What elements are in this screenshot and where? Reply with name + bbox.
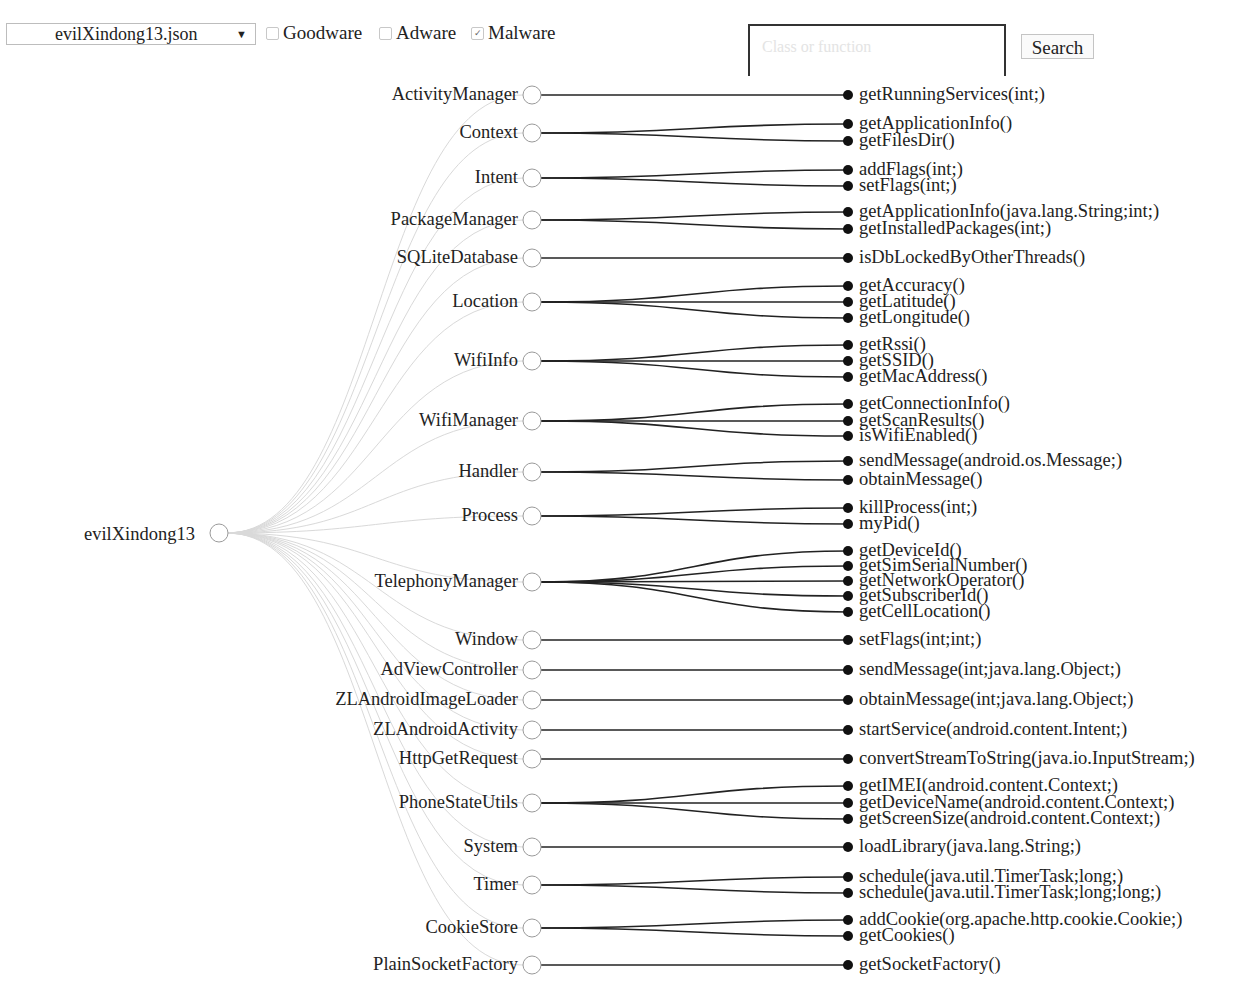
method-label[interactable]: getSocketFactory(): [859, 955, 1001, 973]
method-label[interactable]: getRunningServices(int;): [859, 85, 1045, 103]
method-node-icon[interactable]: [843, 725, 853, 735]
class-node-icon[interactable]: [523, 249, 541, 267]
method-label[interactable]: sendMessage(android.os.Message;): [859, 451, 1122, 469]
method-label[interactable]: setFlags(int;): [859, 176, 957, 194]
class-node-icon[interactable]: [523, 573, 541, 591]
method-node-icon[interactable]: [843, 281, 853, 291]
class-node-icon[interactable]: [523, 721, 541, 739]
class-label[interactable]: ActivityManager: [392, 85, 518, 103]
method-label[interactable]: getFilesDir(): [859, 131, 955, 149]
class-label[interactable]: Location: [452, 292, 518, 310]
class-label[interactable]: Process: [461, 506, 518, 524]
class-node-icon[interactable]: [523, 919, 541, 937]
method-node-icon[interactable]: [843, 399, 853, 409]
class-label[interactable]: AdViewController: [380, 660, 518, 678]
method-node-icon[interactable]: [843, 561, 853, 571]
root-node-label[interactable]: evilXindong13: [84, 524, 195, 545]
method-label[interactable]: getMacAddress(): [859, 367, 987, 385]
method-node-icon[interactable]: [843, 931, 853, 941]
method-label[interactable]: getScreenSize(android.content.Context;): [859, 809, 1160, 827]
method-node-icon[interactable]: [843, 872, 853, 882]
method-node-icon[interactable]: [843, 915, 853, 925]
class-node-icon[interactable]: [523, 463, 541, 481]
method-label[interactable]: schedule(java.util.TimerTask;long;long;): [859, 883, 1161, 901]
method-node-icon[interactable]: [843, 90, 853, 100]
method-node-icon[interactable]: [843, 798, 853, 808]
method-node-icon[interactable]: [843, 519, 853, 529]
method-node-icon[interactable]: [843, 207, 853, 217]
class-node-icon[interactable]: [523, 507, 541, 525]
class-node-icon[interactable]: [523, 691, 541, 709]
class-node-icon[interactable]: [523, 211, 541, 229]
method-node-icon[interactable]: [843, 607, 853, 617]
method-node-icon[interactable]: [843, 136, 853, 146]
method-label[interactable]: getLongitude(): [859, 308, 970, 326]
class-node-icon[interactable]: [523, 876, 541, 894]
method-node-icon[interactable]: [843, 842, 853, 852]
method-label[interactable]: getInstalledPackages(int;): [859, 219, 1051, 237]
class-node-icon[interactable]: [523, 631, 541, 649]
method-node-icon[interactable]: [843, 546, 853, 556]
class-node-icon[interactable]: [523, 956, 541, 974]
class-node-icon[interactable]: [523, 794, 541, 812]
class-label[interactable]: ZLAndroidImageLoader: [335, 690, 518, 708]
method-node-icon[interactable]: [843, 635, 853, 645]
method-node-icon[interactable]: [843, 960, 853, 970]
class-node-icon[interactable]: [523, 124, 541, 142]
class-node-icon[interactable]: [523, 661, 541, 679]
method-node-icon[interactable]: [843, 456, 853, 466]
method-node-icon[interactable]: [843, 503, 853, 513]
method-label[interactable]: getCookies(): [859, 926, 955, 944]
method-node-icon[interactable]: [843, 416, 853, 426]
class-label[interactable]: WifiInfo: [454, 351, 518, 369]
method-label[interactable]: loadLibrary(java.lang.String;): [859, 837, 1081, 855]
method-node-icon[interactable]: [843, 253, 853, 263]
method-node-icon[interactable]: [843, 754, 853, 764]
method-node-icon[interactable]: [843, 356, 853, 366]
method-node-icon[interactable]: [843, 372, 853, 382]
class-label[interactable]: PhoneStateUtils: [399, 793, 518, 811]
method-label[interactable]: myPid(): [859, 514, 920, 532]
class-node-icon[interactable]: [523, 412, 541, 430]
class-label[interactable]: Handler: [458, 462, 518, 480]
method-node-icon[interactable]: [843, 888, 853, 898]
class-label[interactable]: SQLiteDatabase: [397, 248, 518, 266]
method-label[interactable]: obtainMessage(): [859, 470, 982, 488]
class-label[interactable]: CookieStore: [426, 918, 519, 936]
method-node-icon[interactable]: [843, 814, 853, 824]
class-node-icon[interactable]: [523, 352, 541, 370]
method-node-icon[interactable]: [843, 297, 853, 307]
method-label[interactable]: isWifiEnabled(): [859, 426, 977, 444]
class-label[interactable]: HttpGetRequest: [399, 749, 518, 767]
method-node-icon[interactable]: [843, 119, 853, 129]
method-node-icon[interactable]: [843, 781, 853, 791]
class-node-icon[interactable]: [523, 86, 541, 104]
method-node-icon[interactable]: [843, 340, 853, 350]
method-label[interactable]: obtainMessage(int;java.lang.Object;): [859, 690, 1133, 708]
class-label[interactable]: PackageManager: [391, 210, 518, 228]
class-node-icon[interactable]: [523, 750, 541, 768]
class-label[interactable]: Context: [459, 123, 518, 141]
class-node-icon[interactable]: [523, 838, 541, 856]
method-label[interactable]: sendMessage(int;java.lang.Object;): [859, 660, 1121, 678]
class-label[interactable]: WifiManager: [419, 411, 518, 429]
method-node-icon[interactable]: [843, 224, 853, 234]
class-label[interactable]: TelephonyManager: [374, 572, 518, 590]
root-node-icon[interactable]: [210, 524, 228, 542]
method-node-icon[interactable]: [843, 695, 853, 705]
class-label[interactable]: System: [464, 837, 518, 855]
method-node-icon[interactable]: [843, 475, 853, 485]
method-label[interactable]: isDbLockedByOtherThreads(): [859, 248, 1085, 266]
method-node-icon[interactable]: [843, 313, 853, 323]
class-node-icon[interactable]: [523, 293, 541, 311]
class-label[interactable]: Window: [455, 630, 518, 648]
method-node-icon[interactable]: [843, 431, 853, 441]
method-label[interactable]: startService(android.content.Intent;): [859, 720, 1127, 738]
method-node-icon[interactable]: [843, 165, 853, 175]
method-label[interactable]: getCellLocation(): [859, 602, 991, 620]
method-node-icon[interactable]: [843, 181, 853, 191]
method-node-icon[interactable]: [843, 665, 853, 675]
class-label[interactable]: PlainSocketFactory: [373, 955, 518, 973]
method-node-icon[interactable]: [843, 576, 853, 586]
class-label[interactable]: Intent: [475, 168, 518, 186]
